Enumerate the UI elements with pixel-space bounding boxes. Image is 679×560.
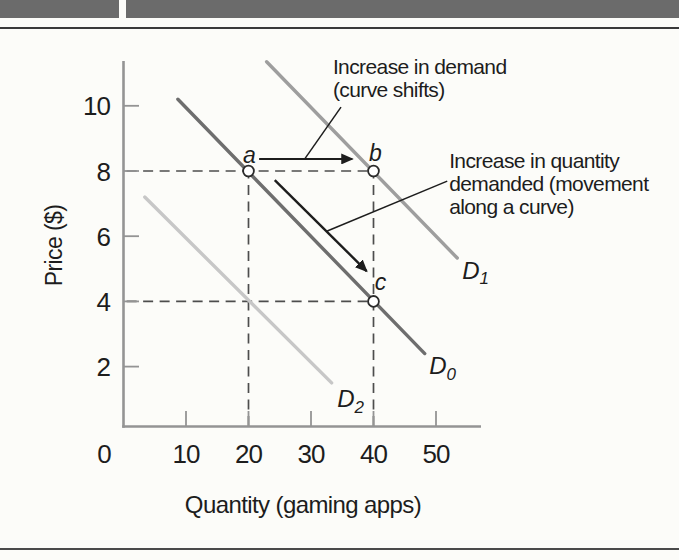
movement-leader	[327, 181, 447, 231]
point-c	[368, 296, 379, 307]
demand-shift-note-line-1: Increase in demand	[333, 55, 507, 78]
curve-label-base-D1: D	[462, 257, 479, 284]
demand-curve-D0	[178, 99, 425, 353]
y-tick-label-8: 8	[97, 157, 111, 187]
movement-note-line-3: along a curve)	[449, 195, 574, 218]
x-tick-label-40: 40	[360, 439, 387, 469]
curve-label-sub-D0: 0	[446, 365, 456, 384]
movement-note-line-1: Increase in quantity	[449, 149, 620, 172]
movement-arrow	[275, 180, 367, 271]
demand-supply-chart: 24681010203040500D0D1D2Increase in deman…	[0, 0, 679, 560]
curve-label-D0: D0	[429, 352, 456, 384]
curve-label-D2: D2	[337, 385, 364, 417]
curve-label-D1: D1	[462, 257, 489, 289]
y-tick-label-6: 6	[97, 222, 111, 252]
y-tick-label-4: 4	[97, 287, 111, 317]
curve-label-base-D0: D	[429, 352, 446, 379]
point-label-a: a	[243, 142, 256, 168]
y-tick-label-2: 2	[97, 352, 111, 382]
x-tick-label-20: 20	[235, 439, 262, 469]
point-label-b: b	[369, 140, 382, 166]
x-tick-label-50: 50	[423, 439, 450, 469]
y-tick-label-10: 10	[83, 91, 110, 121]
point-label-c: c	[375, 269, 387, 295]
x-tick-label-30: 30	[298, 439, 325, 469]
demand-curve-D2	[145, 197, 332, 383]
x-tick-label-10: 10	[173, 439, 200, 469]
movement-note-line-2: demanded (movement	[449, 172, 649, 195]
curve-label-base-D2: D	[337, 385, 354, 412]
curve-label-sub-D2: 2	[354, 398, 365, 417]
demand-shift-note-line-2: (curve shifts)	[333, 78, 445, 101]
point-b	[368, 166, 379, 177]
origin-label: 0	[97, 439, 111, 469]
curve-label-sub-D1: 1	[480, 269, 489, 288]
